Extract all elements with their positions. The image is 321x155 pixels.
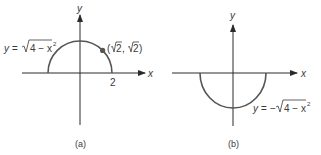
caption-b: (b) [228,139,239,149]
equation-lower: y = − 4 − x 2 [252,100,311,114]
equation-exponent: 2 [53,41,57,47]
equation-radicand: 4 − x [30,43,52,54]
point-label-sep: , [122,43,125,54]
diagram-canvas: y x 2 y = 4 − x 2 ( 2 , 2 ) (a) y x [0,0,321,155]
point-marker [100,48,105,53]
panel-a: y x 2 y = 4 − x 2 ( 2 , 2 ) (a) [3,3,154,149]
equation-exponent: 2 [307,101,311,107]
point-label: ( 2 , 2 ) [107,42,142,54]
caption-a: (a) [75,139,86,149]
tick-label-2: 2 [110,77,116,88]
equation-lhs: y = [3,43,18,54]
equation-radicand: 4 − x [284,103,306,114]
equation-upper: y = 4 − x 2 [3,40,57,54]
panel-b: y x y = − 4 − x 2 (b) [172,10,311,149]
x-axis-label-b: x [300,68,307,79]
equation-lhs: y = − [252,103,275,114]
y-axis-label-b: y [229,10,236,21]
point-label-open: ( [107,43,111,54]
point-label-close: ) [139,43,142,54]
x-axis-label-a: x [147,68,154,79]
y-axis-label-a: y [76,3,83,14]
